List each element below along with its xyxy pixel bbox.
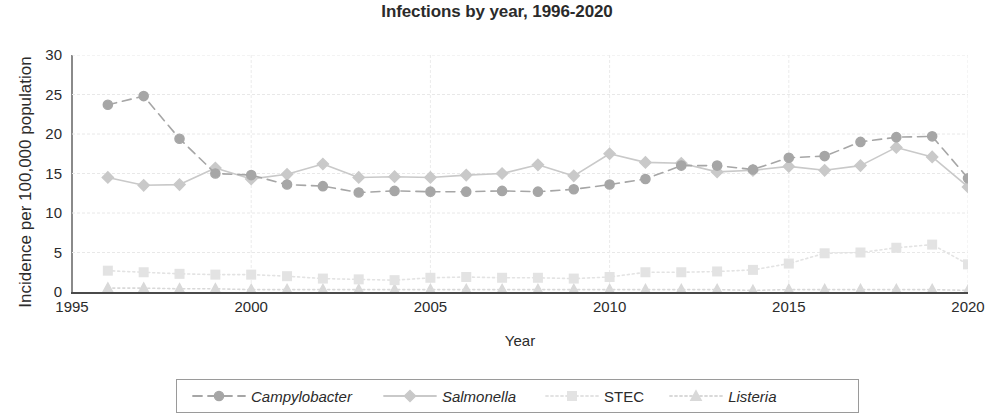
chart-title: Infections by year, 1996-2020 (0, 2, 994, 22)
x-tick-label: 2015 (759, 298, 819, 315)
legend-marker-listeria-icon (668, 387, 724, 405)
x-tick-label: 2000 (221, 298, 281, 315)
x-axis-title: Year (72, 332, 968, 349)
chart-container: Infections by year, 1996-2020 Incidence … (0, 0, 994, 415)
legend-item-stec[interactable]: STEC (544, 380, 644, 412)
legend-label-campylobacter: Campylobacter (247, 388, 352, 405)
legend-marker-stec-icon (544, 387, 600, 405)
series-listeria (103, 283, 968, 292)
y-tick-label: 5 (16, 246, 62, 260)
legend-item-listeria[interactable]: Listeria (668, 380, 776, 412)
plot-area (72, 55, 968, 292)
y-axis-tick-labels: 051015202530 (12, 0, 62, 415)
x-tick-label: 2010 (580, 298, 640, 315)
legend-label-salmonella: Salmonella (438, 388, 516, 405)
x-tick-label: 2005 (400, 298, 460, 315)
x-tick-label: 1995 (42, 298, 102, 315)
legend-item-salmonella[interactable]: Salmonella (382, 380, 516, 412)
series-campylobacter (103, 91, 968, 197)
legend-item-campylobacter[interactable]: Campylobacter (191, 380, 352, 412)
x-axis-line (71, 292, 968, 294)
y-tick-label: 20 (16, 127, 62, 141)
legend-label-stec: STEC (600, 388, 644, 405)
series-salmonella (102, 142, 968, 193)
y-tick-label: 30 (16, 48, 62, 62)
series-stec (104, 240, 968, 284)
legend-marker-salmonella-icon (382, 387, 438, 405)
legend-marker-campylobacter-icon (191, 387, 247, 405)
x-tick-label: 2020 (938, 298, 994, 315)
legend-label-listeria: Listeria (724, 388, 776, 405)
y-tick-label: 10 (16, 206, 62, 220)
y-tick-label: 15 (16, 167, 62, 181)
chart-legend: Campylobacter Salmonella STEC Listeria (176, 379, 859, 413)
series-canvas (72, 55, 968, 292)
y-tick-label: 25 (16, 88, 62, 102)
y-tick-label: 0 (16, 285, 62, 299)
